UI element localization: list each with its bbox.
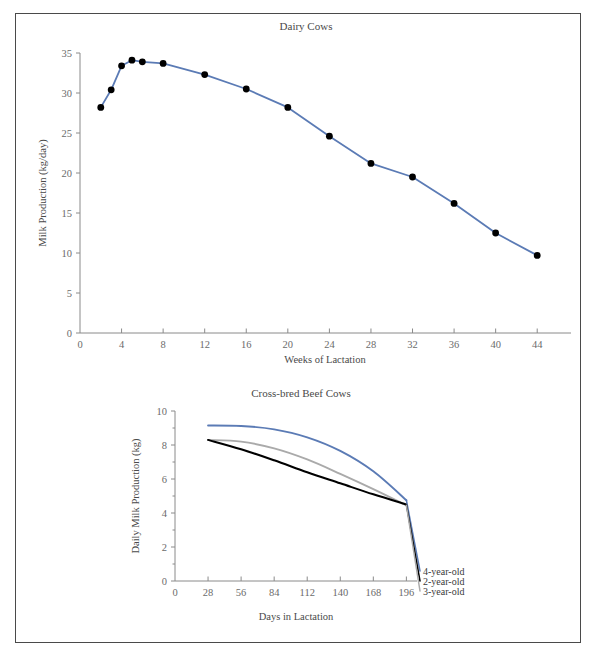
beef-y-axis-label: Daily Milk Production (kg): [130, 438, 142, 554]
x-tick-label: 20: [283, 339, 294, 350]
dairy-y-tick-group: 05101520253035: [62, 48, 81, 339]
x-tick-label: 168: [365, 587, 381, 598]
data-point: [108, 86, 115, 93]
series-curve-4-year-old: [208, 425, 406, 500]
leader-line-4-year-old: [406, 500, 420, 571]
data-point: [492, 230, 499, 237]
x-tick-label: 36: [449, 339, 460, 350]
data-point: [97, 104, 104, 111]
data-point: [326, 133, 333, 140]
y-tick-label: 35: [62, 48, 73, 59]
series-label-3-year-old: 3-year-old: [423, 586, 464, 597]
y-tick-label: 30: [62, 88, 73, 99]
x-tick-label: 8: [161, 339, 166, 350]
y-tick-label: 4: [162, 508, 168, 519]
data-point: [534, 252, 541, 259]
beef-cows-svg: Cross-bred Beef Cows 0246810 02856841121…: [15, 373, 581, 643]
x-tick-label: 4: [119, 339, 125, 350]
y-tick-label: 25: [62, 128, 73, 139]
x-tick-label: 0: [77, 339, 82, 350]
x-tick-label: 24: [324, 339, 335, 350]
dairy-data-line: [101, 60, 537, 255]
y-tick-label: 20: [62, 168, 73, 179]
y-tick-label: 5: [67, 288, 72, 299]
y-tick-label: 2: [162, 542, 167, 553]
x-tick-label: 44: [532, 339, 543, 350]
x-tick-label: 28: [203, 587, 214, 598]
y-tick-label: 0: [162, 576, 167, 587]
x-tick-label: 56: [236, 587, 247, 598]
dairy-x-axis-label: Weeks of Lactation: [284, 354, 366, 365]
dairy-data-points: [97, 57, 540, 259]
beef-series-labels: 4-year-old2-year-old3-year-old: [423, 566, 464, 597]
y-tick-label: 10: [157, 406, 168, 417]
data-point: [243, 86, 250, 93]
x-tick-label: 16: [241, 339, 252, 350]
y-tick-label: 10: [62, 248, 73, 259]
data-point: [139, 58, 146, 65]
y-tick-label: 0: [67, 328, 72, 339]
x-tick-label: 112: [300, 587, 315, 598]
x-tick-label: 84: [269, 587, 280, 598]
data-point: [368, 160, 375, 167]
series-curve-2-year-old: [208, 440, 406, 505]
beef-label-leaders: [406, 500, 420, 591]
x-tick-label: 28: [366, 339, 377, 350]
beef-y-tick-group: 0246810: [157, 406, 176, 587]
leader-line-3-year-old: [406, 505, 420, 591]
beef-x-axis-label: Days in Lactation: [259, 611, 334, 622]
dairy-cows-svg: Dairy Cows 05101520253035 04812162024283…: [15, 13, 581, 373]
dairy-y-axis-label: Milk Production (kg/day): [37, 139, 49, 247]
chart-title-dairy: Dairy Cows: [280, 20, 333, 32]
data-point: [118, 62, 125, 69]
data-point: [451, 200, 458, 207]
y-tick-label: 6: [162, 474, 167, 485]
data-point: [160, 60, 167, 67]
data-point: [409, 174, 416, 181]
figure-page: Dairy Cows 05101520253035 04812162024283…: [0, 0, 599, 666]
x-tick-label: 0: [172, 587, 177, 598]
y-tick-label: 15: [62, 208, 73, 219]
dairy-x-tick-group: 048121620242832364044: [77, 329, 543, 351]
chart-dairy-cows: Dairy Cows 05101520253035 04812162024283…: [15, 13, 581, 373]
y-tick-label: 8: [162, 440, 167, 451]
data-point: [284, 104, 291, 111]
x-tick-label: 32: [407, 339, 418, 350]
x-tick-label: 12: [199, 339, 210, 350]
data-point: [201, 71, 208, 78]
x-tick-label: 196: [399, 587, 415, 598]
chart-title-beef: Cross-bred Beef Cows: [251, 387, 351, 399]
chart-cross-bred-beef-cows: Cross-bred Beef Cows 0246810 02856841121…: [15, 373, 581, 643]
data-point: [129, 57, 136, 64]
x-tick-label: 140: [332, 587, 348, 598]
x-tick-label: 40: [490, 339, 501, 350]
beef-x-tick-group: 0285684112140168196: [172, 577, 414, 599]
beef-data-curves: [208, 425, 406, 505]
